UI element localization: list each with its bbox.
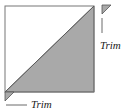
bottom-left-trim-triangle: [5, 92, 14, 101]
bottom-left-trim-label: Trim: [31, 98, 52, 110]
top-right-trim-triangle: [102, 5, 111, 14]
top-right-trim-label: Trim: [100, 39, 121, 51]
trim-diagram: Trim Trim: [0, 0, 128, 110]
